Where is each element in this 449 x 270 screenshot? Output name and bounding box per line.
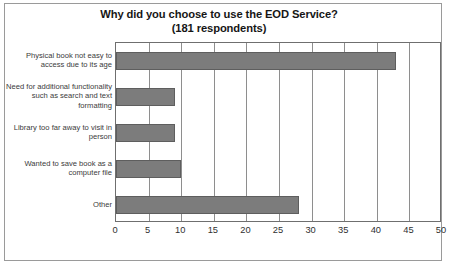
x-tick-label: 0: [100, 225, 130, 235]
x-tick-label: 50: [426, 225, 449, 235]
category-label: Physical book not easy to access due to …: [4, 51, 112, 70]
x-tick-label: 15: [198, 225, 228, 235]
chart-title: Why did you choose to use the EOD Servic…: [6, 8, 432, 35]
category-label: Need for additional functionality such a…: [4, 82, 112, 110]
x-tick-label: 40: [361, 225, 391, 235]
x-tick-label: 20: [230, 225, 260, 235]
plot-area: [115, 42, 441, 222]
bar: [116, 160, 181, 178]
x-tick-label: 10: [165, 225, 195, 235]
category-label: Library too far away to visit in person: [4, 123, 112, 142]
chart-title-text: Why did you choose to use the EOD Servic…: [100, 8, 338, 20]
chart-figure: Why did you choose to use the EOD Servic…: [0, 0, 449, 270]
x-tick-label: 5: [133, 225, 163, 235]
bar: [116, 88, 175, 106]
bar: [116, 124, 175, 142]
x-tick-label: 30: [296, 225, 326, 235]
x-tick-label: 35: [328, 225, 358, 235]
category-label: Wanted to save book as a computer file: [4, 159, 112, 178]
gridline: [409, 43, 410, 221]
x-tick-label: 45: [393, 225, 423, 235]
x-tick-label: 25: [263, 225, 293, 235]
category-label: Other: [4, 200, 112, 209]
bar: [116, 52, 396, 70]
chart-subtitle-text: (181 respondents): [6, 22, 432, 36]
bar: [116, 196, 299, 214]
